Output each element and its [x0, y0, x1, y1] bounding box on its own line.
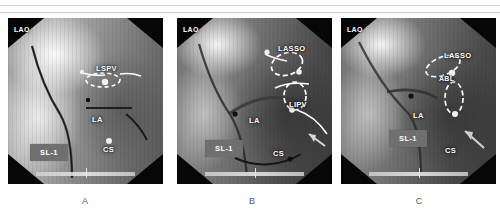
divider-line-second [0, 12, 500, 13]
lasso-label: LASSO [444, 52, 471, 60]
sheath-label-sl1: SL-1 [205, 140, 243, 157]
lasso-label: LASSO [278, 45, 305, 53]
cs-label: CS [445, 147, 456, 155]
sheath-label-sl1: SL-1 [389, 130, 427, 147]
lipv-label: LIPV [289, 101, 307, 109]
la-label: LA [92, 116, 103, 124]
caption-b: B [232, 196, 272, 206]
caption-c: C [399, 196, 439, 206]
scale-ruler-tick [86, 168, 87, 178]
projection-label: LAO [347, 26, 363, 33]
scale-ruler-tick [255, 168, 256, 178]
lspv-label: LSPV [96, 65, 117, 73]
caption-a: A [65, 196, 105, 206]
cs-label: CS [103, 146, 114, 154]
panel-a: LAO LSPV LA CS SL-1 [8, 18, 163, 184]
panel-c: LAO LASSO ABL LA CS SL-1 [341, 18, 496, 184]
catheter-overlay-b [177, 18, 332, 184]
fluoroscopy-figure: LAO LSPV LA CS SL-1 [0, 18, 500, 224]
projection-label: LAO [14, 26, 30, 33]
la-label: LA [413, 112, 424, 120]
divider-line-top [0, 5, 500, 6]
cs-label: CS [273, 150, 284, 158]
sheath-label-sl1: SL-1 [30, 144, 68, 161]
la-label: LA [249, 117, 260, 125]
abl-label: ABL [439, 75, 454, 82]
panel-row: LAO LSPV LA CS SL-1 [0, 18, 500, 184]
catheter-overlay-c [341, 18, 496, 184]
panel-captions: A B C [0, 184, 500, 224]
panel-b: LAO LASSO LIPV LA CS SL-1 [177, 18, 332, 184]
scale-ruler-tick [419, 168, 420, 178]
header-rules [0, 0, 500, 18]
projection-label: LAO [183, 26, 199, 33]
